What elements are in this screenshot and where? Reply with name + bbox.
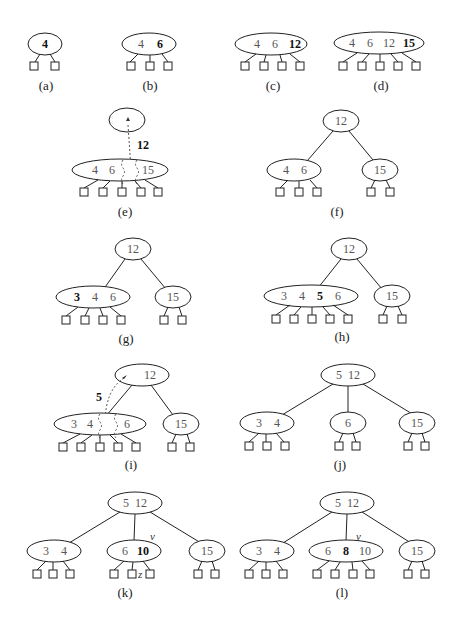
key: 4 [42,37,48,51]
panel-a: 4 (a) [28,33,62,93]
svg-text:3: 3 [74,290,80,304]
svg-text:12: 12 [383,36,395,50]
node-h-left [264,285,358,307]
leaf-icon [51,62,59,70]
node-l-a [240,540,294,562]
svg-text:12: 12 [289,37,301,51]
svg-text:6: 6 [109,163,115,177]
node-k-a [27,540,81,562]
svg-text:15: 15 [403,36,415,50]
svg-text:6: 6 [122,544,128,558]
svg-text:3: 3 [256,416,262,430]
leaf-z [128,570,136,578]
svg-text:8: 8 [343,544,349,558]
node-k-v [107,540,161,562]
svg-text:6: 6 [345,416,351,430]
panel-b: 4 6 (b) [122,33,176,93]
svg-text:12: 12 [144,368,156,382]
svg-text:12: 12 [137,138,149,152]
svg-text:15: 15 [374,163,386,177]
caption-k: (k) [117,585,132,600]
leaf-icon [30,62,38,70]
svg-text:4: 4 [274,416,280,430]
svg-text:15: 15 [411,544,423,558]
node-i-root [115,364,169,386]
svg-text:12: 12 [343,242,355,256]
svg-text:4: 4 [92,290,98,304]
svg-text:15: 15 [142,163,154,177]
svg-text:5 12: 5 12 [123,496,147,510]
svg-text:4: 4 [283,163,289,177]
panel-e: 12 4 6 15 (e) [72,108,168,219]
caption-f: (f) [331,204,344,219]
svg-text:15: 15 [201,544,213,558]
svg-text:4: 4 [299,289,305,303]
svg-text:6: 6 [157,37,163,51]
svg-text:6: 6 [272,37,278,51]
panel-k: 5 12 v 3 4 6 10 15 z (k) [27,492,225,600]
panel-f: 12 4 6 15 (f) [267,110,398,219]
svg-text:6: 6 [325,544,331,558]
svg-text:6: 6 [110,290,116,304]
panel-i: 12 5 3 4 6 15 (i) [54,364,199,472]
node-i-overflow [54,413,146,435]
node-label-v: v [150,530,155,542]
panel-d: 4 6 12 15 (d) [334,32,424,93]
svg-text:6: 6 [367,36,373,50]
panel-c: 4 6 12 (c) [235,33,307,93]
svg-text:4: 4 [254,37,260,51]
svg-text:15: 15 [411,416,423,430]
svg-text:5: 5 [317,289,323,303]
svg-text:4: 4 [138,37,144,51]
svg-text:10: 10 [137,544,149,558]
svg-text:15: 15 [386,289,398,303]
svg-text:4: 4 [349,36,355,50]
panel-j: 5 12 3 4 6 15 (j) [240,364,435,472]
node-b-root [122,33,176,55]
caption-e: (e) [118,204,132,219]
svg-text:10: 10 [359,544,371,558]
panel-g: 12 3 4 6 15 (g) [56,238,191,346]
caption-i: (i) [125,457,137,472]
svg-text:12: 12 [335,114,347,128]
tree-diagram: 4 (a) 4 6 (b) 4 6 12 (c) 4 [0,0,458,627]
svg-text:4: 4 [87,417,93,431]
svg-text:12: 12 [127,242,139,256]
caption-b: (b) [142,78,157,93]
svg-text:3: 3 [43,544,49,558]
svg-text:3: 3 [256,544,262,558]
caption-a: (a) [39,78,53,93]
caption-g: (g) [118,331,133,346]
svg-text:5: 5 [96,390,102,404]
caption-l: (l) [336,585,348,600]
caption-j: (j) [334,457,346,472]
svg-text:3: 3 [71,417,77,431]
caption-d: (d) [373,78,388,93]
panel-l: 5 12 v 3 4 6 8 10 15 (l) [240,492,435,600]
leaf-label-z: z [137,568,143,580]
svg-text:6: 6 [335,289,341,303]
svg-text:4: 4 [61,544,67,558]
svg-text:15: 15 [167,290,179,304]
svg-text:3: 3 [281,289,287,303]
svg-text:5 12: 5 12 [335,496,359,510]
svg-text:15: 15 [175,417,187,431]
panel-h: 12 3 4 5 6 15 (h) [264,238,410,344]
node-j-a [240,412,294,434]
svg-text:6: 6 [301,163,307,177]
svg-text:5 12: 5 12 [336,368,360,382]
svg-text:4: 4 [92,163,98,177]
node-f-left [267,159,321,181]
caption-c: (c) [266,78,280,93]
caption-h: (h) [334,329,349,344]
svg-text:6: 6 [124,417,130,431]
svg-text:4: 4 [274,544,280,558]
